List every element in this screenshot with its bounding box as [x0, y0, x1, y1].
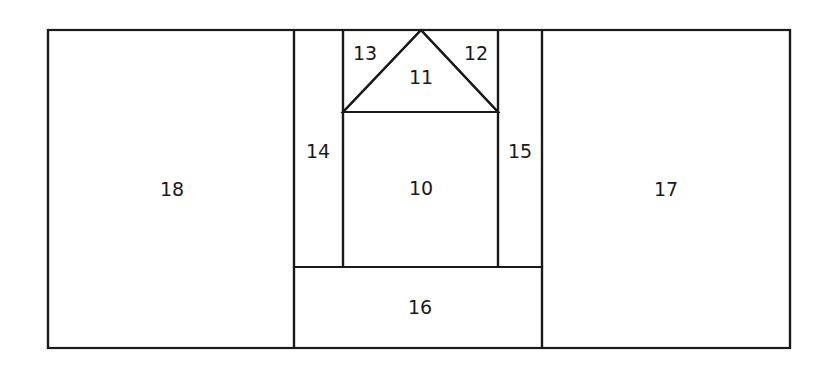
- region-18-label: 18: [160, 178, 184, 200]
- region-13-label: 13: [353, 42, 377, 64]
- region-12-label: 12: [464, 42, 488, 64]
- region-14-label: 14: [306, 140, 330, 162]
- dissection-diagram: 101112131415161718: [0, 0, 832, 367]
- region-16-label: 16: [408, 296, 432, 318]
- region-15-label: 15: [508, 140, 532, 162]
- diagram-canvas: 101112131415161718: [0, 0, 832, 367]
- region-11-label: 11: [409, 66, 433, 88]
- region-10-label: 10: [409, 177, 433, 199]
- region-17-label: 17: [654, 178, 678, 200]
